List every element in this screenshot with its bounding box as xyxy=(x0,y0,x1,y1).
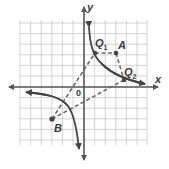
origin-label: 0 xyxy=(76,88,81,98)
hyperbola xyxy=(26,27,145,149)
points xyxy=(49,51,126,122)
point-a xyxy=(114,51,119,56)
label-a: A xyxy=(118,40,126,51)
coordinate-plane xyxy=(0,0,169,169)
label-q1: Q1 xyxy=(95,38,107,53)
y-axis-label: y xyxy=(87,2,93,13)
x-axis-label: x xyxy=(155,74,161,85)
label-b: B xyxy=(54,123,62,134)
label-q2: Q2 xyxy=(124,67,136,82)
point-b xyxy=(49,116,54,121)
axes xyxy=(9,7,158,160)
